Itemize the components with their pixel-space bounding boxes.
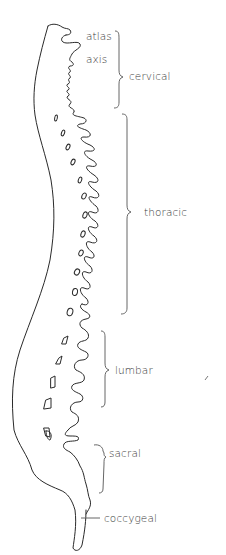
sacral-bracket	[94, 445, 106, 493]
foramen	[54, 115, 58, 121]
foramen	[56, 356, 62, 364]
foramen	[65, 144, 71, 151]
cervical-bracket	[114, 31, 123, 108]
foramen	[73, 268, 80, 276]
label-axis: axis	[86, 53, 107, 65]
spine-drawing	[0, 0, 226, 555]
foramen	[51, 376, 55, 388]
spine-diagram: atlas axis cervical thoracic lumbar sacr…	[0, 0, 226, 555]
stray-mark	[205, 376, 208, 380]
label-atlas: atlas	[86, 30, 112, 42]
foramen	[62, 336, 68, 344]
cervical-processes	[62, 35, 81, 112]
foramen	[82, 211, 88, 218]
label-coccygeal: coccygeal	[104, 512, 157, 524]
thoracic-processes	[73, 112, 99, 305]
foramen	[66, 308, 73, 317]
label-cervical: cervical	[129, 70, 171, 82]
foramen	[80, 230, 86, 237]
foramen	[72, 288, 78, 296]
lumbar-bracket	[101, 331, 109, 407]
foramen	[46, 431, 51, 440]
foramen	[78, 249, 84, 256]
foramen	[61, 130, 66, 137]
foramen	[77, 177, 82, 184]
label-sacral: sacral	[109, 447, 141, 459]
lumbar-processes	[68, 304, 90, 430]
thoracic-bracket	[121, 114, 131, 314]
label-lumbar: lumbar	[115, 364, 153, 376]
label-thoracic: thoracic	[144, 206, 187, 218]
foramen	[70, 159, 76, 166]
top-contour	[48, 24, 71, 35]
foramen	[44, 398, 51, 409]
sacral-outline	[63, 430, 90, 514]
foramen	[81, 192, 87, 199]
